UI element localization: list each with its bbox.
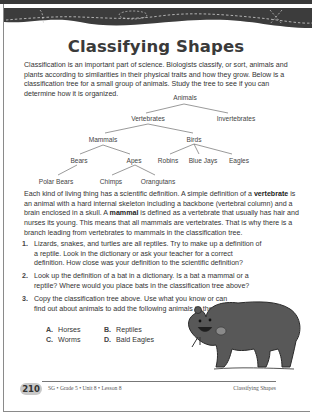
tree-node-apes: Apes — [126, 157, 141, 164]
option-a: A.Horses — [46, 326, 81, 336]
option-letter: B. — [104, 326, 111, 334]
tree-node-invertebrates: Invertebrates — [217, 115, 255, 122]
question-1: 1. Lizards, snakes, and turtles are all … — [34, 240, 264, 269]
option-c: C.Worms — [46, 336, 80, 346]
page-title: Classifying Shapes — [0, 37, 312, 56]
tree-node-vertebrates: Vertebrates — [131, 115, 165, 122]
question-text: Lizards, snakes, and turtles are all rep… — [34, 240, 262, 267]
question-2: 2. Look up the definition of a bat in a … — [34, 272, 264, 291]
footer-course-info: SG • Grade 5 • Unit 8 • Lesson 8 — [48, 385, 121, 391]
classification-tree: Animals Vertebrates Invertebrates Mammal… — [0, 90, 312, 190]
option-label: Horses — [58, 326, 80, 334]
tree-node-robins: Robins — [158, 157, 179, 164]
tree-node-mammals: Mammals — [89, 136, 118, 143]
option-b: B.Reptiles — [104, 326, 142, 336]
option-letter: D. — [104, 336, 111, 344]
tree-node-blue-jays: Blue Jays — [189, 157, 218, 164]
option-letter: A. — [46, 326, 53, 334]
page-number-badge: 210 — [20, 383, 42, 395]
bear-illustration — [178, 295, 306, 375]
tree-node-polar-bears: Polar Bears — [39, 178, 73, 185]
footer-divider — [42, 381, 276, 382]
tree-node-bears: Bears — [70, 157, 87, 164]
question-number: 1. — [22, 240, 28, 250]
definition-text: Each kind of living thing has a scientif… — [24, 190, 254, 198]
footer-section-title: Classifying Shapes — [233, 385, 276, 391]
term-vertebrate: vertebrate — [254, 190, 288, 198]
term-mammal: mammal — [110, 209, 139, 217]
option-letter: C. — [46, 336, 53, 344]
tree-branches — [0, 90, 312, 190]
definition-paragraph: Each kind of living thing has a scientif… — [24, 190, 300, 239]
tree-node-animals: Animals — [173, 94, 196, 101]
tree-node-chimps: Chimps — [100, 178, 122, 185]
question-number: 2. — [22, 272, 28, 282]
option-label: Reptiles — [116, 326, 142, 334]
tree-node-eagles: Eagles — [229, 157, 249, 164]
header-banner — [0, 0, 312, 34]
option-d: D.Bald Eagles — [104, 336, 154, 346]
question-text: Look up the definition of a bat in a dic… — [34, 272, 249, 290]
tree-node-orangutans: Orangutans — [141, 178, 175, 185]
option-label: Worms — [58, 336, 80, 344]
question-number: 3. — [22, 295, 28, 305]
tree-node-birds: Birds — [186, 136, 201, 143]
option-label: Bald Eagles — [116, 336, 154, 344]
